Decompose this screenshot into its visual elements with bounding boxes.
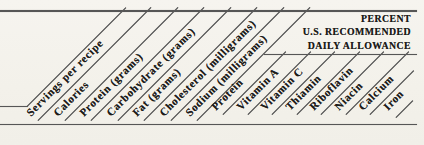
bottom-rule — [0, 124, 417, 126]
percent-header-line2: U.S. RECOMMENDED — [270, 25, 411, 38]
percent-header: PERCENT U.S. RECOMMENDED DAILY ALLOWANCE — [270, 12, 411, 52]
nutrition-table-header: Servings per recipeCaloriesProtein (gram… — [0, 0, 424, 145]
left-notch-rule — [0, 106, 28, 107]
percent-header-line3: DAILY ALLOWANCE — [270, 39, 411, 52]
percent-header-line1: PERCENT — [270, 12, 411, 25]
percent-underline-rule — [264, 54, 417, 55]
